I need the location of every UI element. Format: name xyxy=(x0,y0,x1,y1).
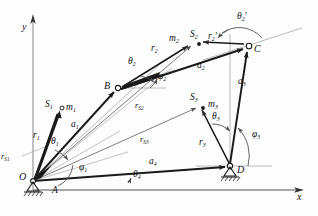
label-S3: S3 xyxy=(190,93,198,103)
arc-theta3 xyxy=(212,124,230,131)
arc-theta2-prime-head xyxy=(218,30,228,38)
label-phi2-sub: 2 xyxy=(163,76,166,82)
link-a3-vector xyxy=(230,52,247,164)
label-r3: r3 xyxy=(199,138,206,148)
label-theta2-prime: θ2′ xyxy=(237,12,247,22)
label-a4: a4 xyxy=(149,157,157,167)
label-m3: m3 xyxy=(208,100,218,110)
point-label-C: C xyxy=(254,44,261,54)
label-m2-base: m xyxy=(169,33,176,43)
label-m2: m2 xyxy=(169,34,179,44)
arc-theta4 xyxy=(128,178,131,183)
point-label-O: O xyxy=(19,172,26,182)
label-theta3-sub: 3 xyxy=(217,116,220,122)
label-S2: S2 xyxy=(190,30,198,40)
label-theta2: θ2 xyxy=(128,57,136,67)
label-theta1: θ1 xyxy=(51,137,59,147)
ref-ray-O-link1 xyxy=(33,131,120,181)
label-theta4: θ4 xyxy=(133,170,141,180)
label-a1-sub: 1 xyxy=(76,124,79,130)
label-rS1-sub: S1 xyxy=(4,156,9,162)
vector-rS2 xyxy=(33,46,191,181)
mass-center-marker-S3 xyxy=(201,106,205,110)
label-rS1: rS1 xyxy=(1,152,10,161)
label-theta2p-sub: 2 xyxy=(242,16,245,22)
label-theta3: θ3 xyxy=(212,112,220,122)
label-m1-sub: 1 xyxy=(73,107,76,113)
label-a3: a3 xyxy=(238,77,246,87)
label-rS3-sub: S3 xyxy=(143,139,148,145)
mass-center-marker-S2 xyxy=(197,42,201,46)
label-theta2-sub: 2 xyxy=(133,61,136,67)
label-theta3-base: θ xyxy=(212,111,217,121)
label-rS2: rS2 xyxy=(135,101,144,110)
arc-theta2-prime xyxy=(222,28,262,38)
arc-phi3 xyxy=(238,128,249,166)
label-r2-sub: 2 xyxy=(155,48,158,54)
label-theta1-base: θ xyxy=(51,136,56,146)
label-r3-sub: 3 xyxy=(203,142,206,148)
label-theta2-base: θ xyxy=(128,56,133,66)
label-S3-sub: 3 xyxy=(195,97,198,103)
ref-line-C-oblique xyxy=(203,28,302,60)
kinematic-diagram-figure: y x O A B C D S1 m1 S2 m2 S3 m3 a1 a2 a3… xyxy=(0,0,318,216)
label-a3-sub: 3 xyxy=(243,81,246,87)
joint-B xyxy=(115,85,120,90)
label-phi1: φ1 xyxy=(79,163,87,173)
label-m3-sub: 3 xyxy=(215,104,218,110)
label-rS3: rS3 xyxy=(140,135,149,144)
vector-r2-prime xyxy=(203,42,244,44)
label-m3-base: m xyxy=(208,99,215,109)
label-a1: a1 xyxy=(71,120,79,130)
mass-center-marker-S1 xyxy=(60,106,64,110)
label-m1: m1 xyxy=(66,103,76,113)
label-a4-sub: 4 xyxy=(154,161,157,167)
label-phi1-sub: 1 xyxy=(84,167,87,173)
label-r1: r1 xyxy=(33,131,40,141)
label-phi3-sub: 3 xyxy=(257,134,260,140)
label-phi2: φ2 xyxy=(158,72,166,82)
label-r2: r2 xyxy=(151,44,158,54)
y-axis-label: y xyxy=(22,22,26,32)
link-a4-vector xyxy=(33,167,225,181)
arc-phi1 xyxy=(58,165,73,186)
label-theta4-sub: 4 xyxy=(138,174,141,180)
label-m2-sub: 2 xyxy=(176,38,179,44)
point-label-D: D xyxy=(237,165,244,175)
label-S1: S1 xyxy=(45,100,53,110)
point-label-B: B xyxy=(104,81,110,91)
label-r1-sub: 1 xyxy=(37,135,40,141)
joint-C xyxy=(246,43,252,49)
x-axis-label: x xyxy=(297,192,301,202)
label-a2: a2 xyxy=(197,61,205,71)
label-m1-base: m xyxy=(66,102,73,112)
label-phi3: φ3 xyxy=(252,130,260,140)
label-a2-sub: 2 xyxy=(202,65,205,71)
label-S1-sub: 1 xyxy=(50,104,53,110)
point-label-A: A xyxy=(52,186,58,196)
label-r2-prime: r2′ xyxy=(208,32,217,42)
label-theta2p-base: θ xyxy=(237,11,242,21)
label-S2-sub: 2 xyxy=(195,34,198,40)
label-rS2-sub: S2 xyxy=(138,105,143,111)
label-r2p-sub: 2 xyxy=(212,36,215,42)
label-theta4-base: θ xyxy=(133,169,138,179)
label-theta1-sub: 1 xyxy=(56,141,59,147)
